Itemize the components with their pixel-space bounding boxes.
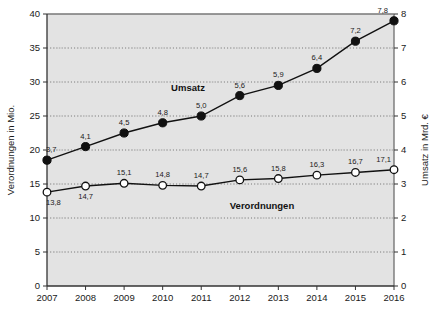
- data-point-verordnungen: [197, 182, 205, 190]
- data-point-verordnungen: [120, 180, 128, 188]
- y-tick-label-left: 35: [29, 42, 40, 53]
- x-tick-label: 2012: [229, 292, 250, 303]
- x-tick-label: 2013: [268, 292, 289, 303]
- y-axis-left-title: Verordnungen in Mio.: [5, 105, 16, 195]
- series-annotation-verordnungen: Verordnungen: [230, 200, 295, 211]
- value-label-verordnungen: 17,1: [376, 155, 391, 164]
- y-tick-label-right: 4: [401, 144, 406, 155]
- value-label-verordnungen: 15,6: [232, 165, 247, 174]
- x-tick-label: 2015: [345, 292, 366, 303]
- y-tick-label-left: 40: [29, 8, 40, 19]
- data-point-verordnungen: [352, 169, 360, 177]
- y-tick-label-right: 0: [401, 280, 406, 291]
- y-tick-label-left: 5: [35, 246, 40, 257]
- value-label-umsatz: 5,9: [273, 70, 284, 79]
- value-label-verordnungen: 14,8: [155, 170, 170, 179]
- data-point-verordnungen: [159, 182, 167, 190]
- data-point-umsatz: [120, 129, 128, 137]
- data-point-umsatz: [43, 156, 51, 164]
- data-point-umsatz: [159, 119, 167, 127]
- value-label-verordnungen: 14,7: [194, 171, 209, 180]
- data-point-verordnungen: [43, 188, 51, 196]
- data-point-umsatz: [390, 17, 398, 25]
- data-point-verordnungen: [82, 182, 90, 190]
- value-label-verordnungen: 15,1: [117, 168, 132, 177]
- value-label-umsatz: 7,2: [350, 26, 361, 35]
- x-tick-label: 2008: [75, 292, 96, 303]
- value-label-verordnungen: 13,8: [46, 198, 61, 207]
- value-label-verordnungen: 16,3: [309, 160, 324, 169]
- data-point-verordnungen: [313, 171, 321, 179]
- data-point-verordnungen: [275, 175, 283, 183]
- value-label-umsatz: 6,4: [312, 53, 323, 62]
- x-axis-tick-labels: 2007200820092010201120122013201420152016: [36, 292, 404, 303]
- series-annotation-umsatz: Umsatz: [171, 82, 205, 93]
- data-point-verordnungen: [236, 176, 244, 184]
- y-tick-label-right: 7: [401, 42, 406, 53]
- y-axis-right-tick-labels: 012345678: [401, 8, 406, 291]
- value-label-umsatz: 5,6: [234, 81, 245, 90]
- y-axis-left-tick-labels: 0510152025303540: [29, 8, 40, 291]
- data-point-umsatz: [351, 37, 359, 45]
- value-label-umsatz: 7,8: [377, 6, 388, 15]
- data-point-umsatz: [197, 112, 205, 120]
- value-label-verordnungen: 16,7: [348, 157, 363, 166]
- y-tick-label-left: 30: [29, 76, 40, 87]
- y-tick-label-left: 25: [29, 110, 40, 121]
- value-label-umsatz: 5,0: [196, 101, 207, 110]
- line-chart: 0510152025303540 012345678 2007200820092…: [0, 0, 436, 314]
- data-point-verordnungen: [390, 166, 398, 174]
- x-tick-label: 2009: [114, 292, 135, 303]
- x-tick-label: 2011: [191, 292, 211, 303]
- y-tick-label-left: 10: [29, 212, 40, 223]
- y-tick-label-left: 0: [35, 280, 40, 291]
- data-point-umsatz: [236, 92, 244, 100]
- x-tick-label: 2007: [36, 292, 57, 303]
- x-tick-label: 2010: [152, 292, 173, 303]
- data-point-umsatz: [313, 64, 321, 72]
- value-label-verordnungen: 15,8: [271, 164, 286, 173]
- data-point-umsatz: [81, 143, 89, 151]
- y-tick-label-right: 8: [401, 8, 406, 19]
- x-tick-label: 2014: [306, 292, 327, 303]
- data-point-umsatz: [274, 81, 282, 89]
- y-tick-label-left: 20: [29, 144, 40, 155]
- y-tick-label-right: 6: [401, 76, 406, 87]
- y-tick-label-left: 15: [29, 178, 40, 189]
- y-tick-label-right: 5: [401, 110, 406, 121]
- value-label-umsatz: 3,7: [46, 145, 57, 154]
- value-label-umsatz: 4,1: [80, 132, 91, 141]
- chart-container: 0510152025303540 012345678 2007200820092…: [0, 0, 436, 314]
- value-label-umsatz: 4,5: [119, 118, 130, 127]
- y-axis-right-title: Umsatz in Mrd. €: [419, 113, 430, 186]
- y-tick-label-right: 3: [401, 178, 406, 189]
- value-label-umsatz: 4,8: [157, 108, 168, 117]
- y-tick-label-right: 2: [401, 212, 406, 223]
- y-tick-label-right: 1: [401, 246, 406, 257]
- x-tick-label: 2016: [383, 292, 404, 303]
- value-label-verordnungen: 14,7: [78, 192, 93, 201]
